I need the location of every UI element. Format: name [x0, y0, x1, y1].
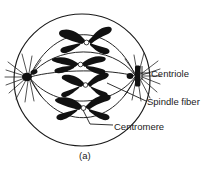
- centromere-point: [83, 83, 88, 88]
- figure-container: Centriole Spindle fiber Centromere (a): [0, 0, 217, 169]
- mitosis-metaphase-diagram: [0, 0, 217, 169]
- chromosome-2: [52, 56, 106, 74]
- figure-caption: (a): [79, 150, 91, 161]
- left-centriole-icon: [22, 68, 38, 81]
- centromere-point: [81, 106, 86, 111]
- centromere-point: [84, 40, 89, 45]
- chromosome-3: [61, 73, 109, 97]
- chromosome-1: [59, 27, 112, 54]
- chromosome-4: [55, 95, 111, 120]
- centromere-point: [78, 62, 83, 67]
- spindle-fiber: [30, 71, 135, 77]
- label-centromere: Centromere: [114, 122, 164, 132]
- label-centriole: Centriole: [151, 69, 189, 79]
- spindle-fiber-group: [30, 35, 135, 118]
- label-spindle-fiber: Spindle fiber: [147, 97, 200, 107]
